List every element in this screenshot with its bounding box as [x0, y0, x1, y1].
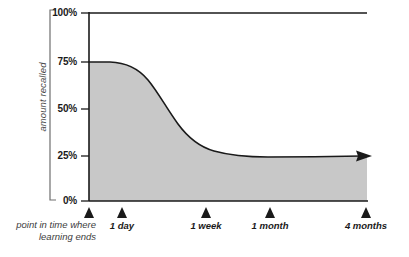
y-axis-title-wrapper: amount recalled: [33, 27, 51, 167]
forgetting-curve-chart: 100% 75% 50% 25% 0% amount recalled 1 da…: [0, 0, 409, 257]
x-marker-triangle-origin: [84, 207, 94, 218]
x-marker-triangle-1-week: [201, 207, 211, 218]
origin-caption-line-1: point in time where: [0, 219, 96, 231]
area-fill: [89, 62, 367, 201]
y-tick-label-100: 100%: [43, 8, 77, 18]
x-marker-triangle-4-months: [361, 207, 371, 218]
x-tick-label-1-week: 1 week: [176, 220, 236, 231]
y-tick-label-0: 0%: [43, 196, 77, 206]
x-tick-label-1-month: 1 month: [238, 220, 302, 231]
x-tick-label-4-months: 4 months: [332, 220, 400, 231]
x-tick-label-1-day: 1 day: [92, 220, 152, 231]
origin-caption-line-2: learning ends: [0, 231, 96, 243]
origin-caption: point in time where learning ends: [0, 219, 96, 243]
y-axis-title: amount recalled: [37, 62, 48, 131]
x-marker-triangle-1-month: [265, 207, 275, 218]
x-marker-triangle-1-day: [117, 207, 127, 218]
